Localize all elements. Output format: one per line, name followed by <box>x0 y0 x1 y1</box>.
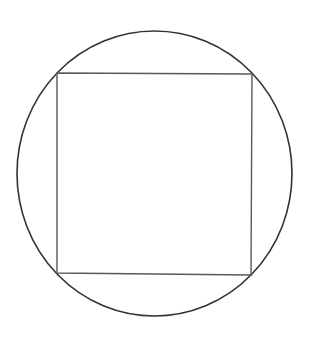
diagram-canvas <box>0 0 315 337</box>
inscribed-square <box>57 73 252 275</box>
